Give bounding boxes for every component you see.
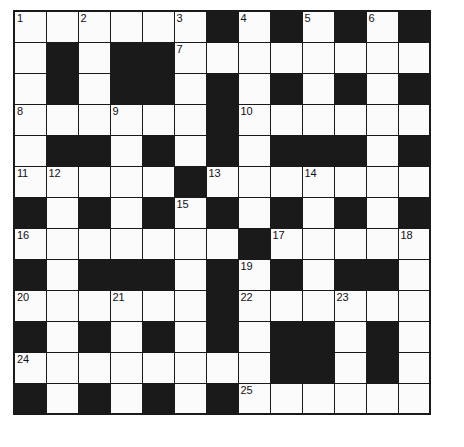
crossword-cell-open[interactable] [110, 11, 142, 42]
crossword-cell-open[interactable] [46, 259, 78, 290]
crossword-cell-open[interactable] [334, 166, 366, 197]
crossword-cell-open[interactable] [334, 383, 366, 414]
crossword-cell-open[interactable] [46, 352, 78, 383]
crossword-grid[interactable]: 1234567891011121314151617181920212223242… [13, 10, 431, 415]
crossword-cell-open[interactable] [366, 73, 398, 104]
crossword-cell-open[interactable] [174, 383, 206, 414]
crossword-cell-open[interactable] [174, 352, 206, 383]
crossword-cell-open[interactable]: 12 [46, 166, 78, 197]
crossword-cell-open[interactable] [238, 197, 270, 228]
crossword-cell-open[interactable]: 17 [270, 228, 302, 259]
crossword-cell-open[interactable] [398, 166, 430, 197]
crossword-cell-open[interactable] [238, 321, 270, 352]
crossword-cell-open[interactable] [398, 42, 430, 73]
crossword-cell-open[interactable] [174, 228, 206, 259]
crossword-cell-open[interactable]: 2 [78, 11, 110, 42]
crossword-cell-open[interactable] [334, 104, 366, 135]
crossword-cell-open[interactable] [366, 228, 398, 259]
crossword-cell-open[interactable]: 9 [110, 104, 142, 135]
crossword-cell-open[interactable] [366, 42, 398, 73]
crossword-cell-open[interactable] [110, 383, 142, 414]
crossword-cell-open[interactable] [334, 228, 366, 259]
crossword-cell-open[interactable]: 23 [334, 290, 366, 321]
crossword-cell-open[interactable] [302, 104, 334, 135]
crossword-cell-open[interactable] [302, 228, 334, 259]
crossword-cell-open[interactable]: 22 [238, 290, 270, 321]
crossword-cell-open[interactable] [142, 166, 174, 197]
crossword-cell-open[interactable] [302, 42, 334, 73]
crossword-cell-open[interactable] [46, 197, 78, 228]
crossword-cell-open[interactable] [78, 73, 110, 104]
crossword-cell-open[interactable] [398, 383, 430, 414]
crossword-cell-open[interactable]: 24 [14, 352, 46, 383]
crossword-cell-open[interactable] [270, 166, 302, 197]
crossword-cell-open[interactable] [110, 321, 142, 352]
crossword-cell-open[interactable] [142, 290, 174, 321]
crossword-cell-open[interactable] [238, 42, 270, 73]
crossword-cell-open[interactable] [238, 73, 270, 104]
crossword-cell-open[interactable] [174, 321, 206, 352]
crossword-cell-open[interactable] [14, 135, 46, 166]
crossword-cell-open[interactable] [398, 321, 430, 352]
crossword-cell-open[interactable] [142, 228, 174, 259]
crossword-cell-open[interactable] [142, 11, 174, 42]
crossword-cell-open[interactable] [110, 352, 142, 383]
crossword-cell-open[interactable]: 3 [174, 11, 206, 42]
crossword-cell-open[interactable] [110, 197, 142, 228]
crossword-cell-open[interactable] [398, 290, 430, 321]
crossword-cell-open[interactable] [142, 352, 174, 383]
crossword-cell-open[interactable] [302, 73, 334, 104]
crossword-cell-open[interactable] [334, 42, 366, 73]
crossword-cell-open[interactable] [14, 73, 46, 104]
crossword-cell-open[interactable] [334, 321, 366, 352]
crossword-cell-open[interactable] [206, 352, 238, 383]
crossword-cell-open[interactable] [110, 166, 142, 197]
crossword-cell-open[interactable] [46, 104, 78, 135]
crossword-cell-open[interactable] [398, 259, 430, 290]
crossword-cell-open[interactable] [78, 104, 110, 135]
crossword-cell-open[interactable]: 25 [238, 383, 270, 414]
crossword-cell-open[interactable] [46, 228, 78, 259]
crossword-cell-open[interactable] [174, 290, 206, 321]
crossword-cell-open[interactable] [398, 352, 430, 383]
crossword-cell-open[interactable]: 11 [14, 166, 46, 197]
crossword-cell-open[interactable]: 13 [206, 166, 238, 197]
crossword-cell-open[interactable] [270, 104, 302, 135]
crossword-cell-open[interactable]: 1 [14, 11, 46, 42]
crossword-cell-open[interactable] [238, 135, 270, 166]
crossword-cell-open[interactable]: 6 [366, 11, 398, 42]
crossword-cell-open[interactable] [78, 228, 110, 259]
crossword-cell-open[interactable] [238, 352, 270, 383]
crossword-cell-open[interactable] [110, 228, 142, 259]
crossword-cell-open[interactable]: 16 [14, 228, 46, 259]
crossword-cell-open[interactable]: 7 [174, 42, 206, 73]
crossword-cell-open[interactable]: 19 [238, 259, 270, 290]
crossword-cell-open[interactable] [366, 383, 398, 414]
crossword-cell-open[interactable] [238, 166, 270, 197]
crossword-cell-open[interactable]: 15 [174, 197, 206, 228]
crossword-cell-open[interactable] [14, 42, 46, 73]
crossword-cell-open[interactable]: 10 [238, 104, 270, 135]
crossword-cell-open[interactable] [270, 42, 302, 73]
crossword-cell-open[interactable] [46, 11, 78, 42]
crossword-cell-open[interactable] [302, 197, 334, 228]
crossword-cell-open[interactable] [46, 290, 78, 321]
crossword-cell-open[interactable] [78, 166, 110, 197]
crossword-cell-open[interactable]: 5 [302, 11, 334, 42]
crossword-cell-open[interactable] [302, 259, 334, 290]
crossword-cell-open[interactable]: 4 [238, 11, 270, 42]
crossword-cell-open[interactable] [302, 290, 334, 321]
crossword-cell-open[interactable] [110, 135, 142, 166]
crossword-cell-open[interactable] [366, 166, 398, 197]
crossword-cell-open[interactable] [78, 352, 110, 383]
crossword-cell-open[interactable]: 21 [110, 290, 142, 321]
crossword-cell-open[interactable] [46, 321, 78, 352]
crossword-cell-open[interactable] [366, 197, 398, 228]
crossword-cell-open[interactable] [142, 104, 174, 135]
crossword-cell-open[interactable]: 14 [302, 166, 334, 197]
crossword-cell-open[interactable] [206, 42, 238, 73]
crossword-cell-open[interactable] [174, 135, 206, 166]
crossword-cell-open[interactable]: 18 [398, 228, 430, 259]
crossword-cell-open[interactable] [270, 383, 302, 414]
crossword-cell-open[interactable] [46, 383, 78, 414]
